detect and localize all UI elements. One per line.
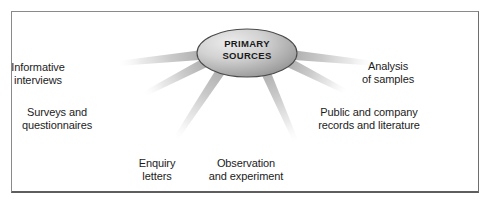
label-line-2: questionnaires bbox=[22, 119, 92, 132]
primary-sources-label: PRIMARY SOURCES bbox=[197, 38, 297, 61]
label-surveys-and-questionnaires: Surveys and questionnaires bbox=[22, 106, 92, 132]
label-enquiry-letters: Enquiry letters bbox=[139, 157, 176, 183]
ray-surveys-and-questionnaires bbox=[143, 59, 206, 96]
center-line-2: SOURCES bbox=[197, 50, 297, 62]
label-line-2: of samples bbox=[362, 73, 414, 86]
label-line-1: Enquiry bbox=[139, 157, 176, 170]
center-line-1: PRIMARY bbox=[197, 38, 297, 50]
label-line-2: and experiment bbox=[209, 170, 283, 183]
label-line-1: Analysis bbox=[362, 60, 414, 73]
label-line-2: interviews bbox=[11, 74, 64, 87]
label-line-1: Public and company bbox=[318, 106, 420, 119]
primary-sources-diagram: PRIMARY SOURCES Informative interviews S… bbox=[0, 0, 494, 212]
ray-enquiry-letters bbox=[173, 69, 224, 141]
ray-public-and-company-records bbox=[288, 59, 348, 94]
label-informative-interviews: Informative interviews bbox=[11, 61, 64, 87]
ray-informative-interviews bbox=[117, 50, 199, 65]
label-line-1: Surveys and bbox=[22, 106, 92, 119]
label-analysis-of-samples: Analysis of samples bbox=[362, 60, 414, 86]
label-line-1: Observation bbox=[209, 157, 283, 170]
label-line-1: Informative bbox=[11, 61, 64, 74]
label-public-and-company-records: Public and company records and literatur… bbox=[318, 106, 420, 132]
label-line-2: records and literature bbox=[318, 119, 420, 132]
label-observation-and-experiment: Observation and experiment bbox=[209, 157, 283, 183]
label-line-2: letters bbox=[139, 170, 176, 183]
ray-observation-and-experiment bbox=[262, 71, 298, 142]
